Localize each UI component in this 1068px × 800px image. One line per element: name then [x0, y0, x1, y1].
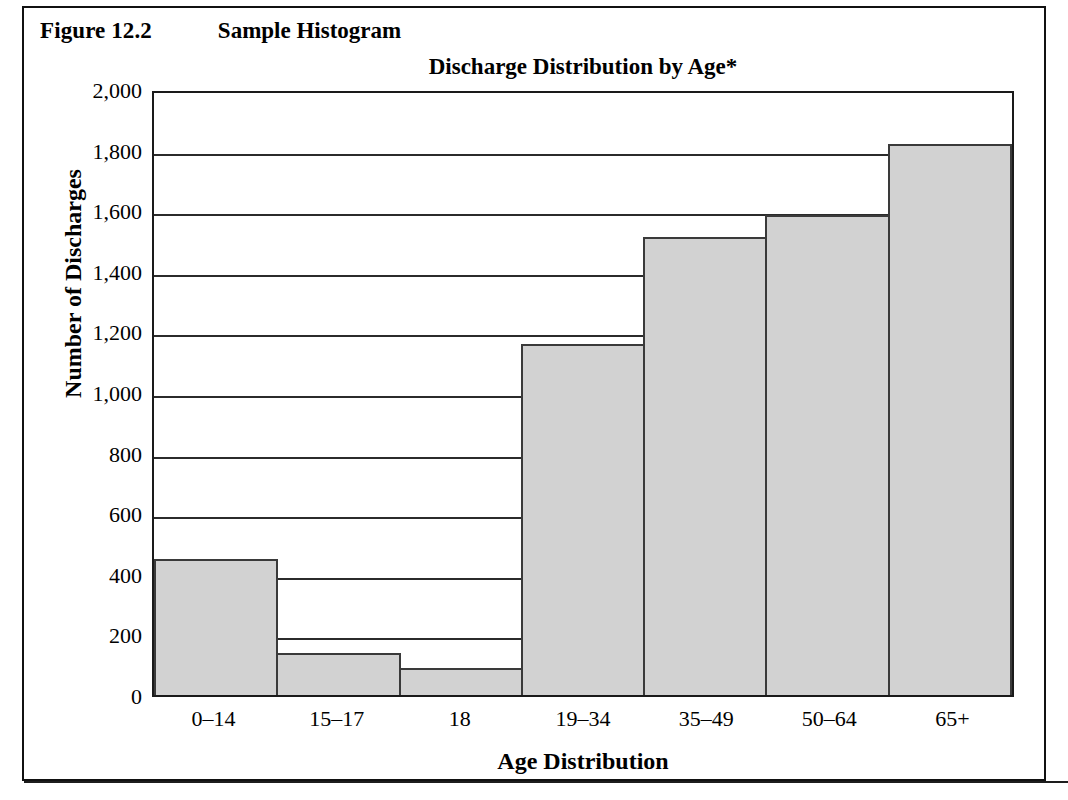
bar — [399, 668, 523, 695]
x-axis-tick-label: 50–64 — [768, 706, 891, 732]
x-axis-tick-label: 15–17 — [275, 706, 398, 732]
plot-area — [152, 91, 1014, 697]
y-axis-tick-label: 1,000 — [93, 381, 143, 407]
bar — [643, 237, 767, 695]
y-axis-tick-labels: 2,0001,8001,6001,4001,2001,0008006004002… — [62, 91, 142, 697]
x-axis-tick-label: 19–34 — [521, 706, 644, 732]
y-axis-tick-label: 400 — [109, 563, 142, 589]
y-axis-tick-label: 1,800 — [93, 139, 143, 165]
footnote-divider — [24, 781, 1068, 783]
y-axis-tick-label: 1,400 — [93, 260, 143, 286]
figure-caption-text: Sample Histogram — [218, 18, 401, 44]
bar-series — [154, 93, 1012, 695]
bar — [765, 215, 889, 695]
y-axis-tick-label: 800 — [109, 442, 142, 468]
x-axis-tick-label: 0–14 — [152, 706, 275, 732]
x-axis-tick-label: 65+ — [891, 706, 1014, 732]
y-axis-tick-label: 200 — [109, 623, 142, 649]
x-axis-tick-labels: 0–1415–171819–3435–4950–6465+ — [152, 706, 1014, 732]
bar — [888, 144, 1012, 695]
figure-page: Figure 12.2 Sample Histogram Discharge D… — [0, 0, 1068, 800]
y-axis-tick-label: 1,600 — [93, 199, 143, 225]
x-axis-title: Age Distribution — [152, 748, 1014, 775]
y-axis-tick-label: 600 — [109, 502, 142, 528]
figure-caption-row: Figure 12.2 Sample Histogram — [40, 18, 401, 44]
bar — [276, 653, 400, 695]
bar — [154, 559, 278, 695]
y-axis-tick-label: 0 — [131, 684, 142, 710]
figure-number: Figure 12.2 — [40, 18, 152, 44]
bar — [521, 344, 645, 695]
x-axis-tick-label: 35–49 — [645, 706, 768, 732]
chart-title: Discharge Distribution by Age* — [152, 54, 1014, 80]
x-axis-tick-label: 18 — [398, 706, 521, 732]
y-axis-tick-label: 1,200 — [93, 320, 143, 346]
y-axis-tick-label: 2,000 — [93, 78, 143, 104]
